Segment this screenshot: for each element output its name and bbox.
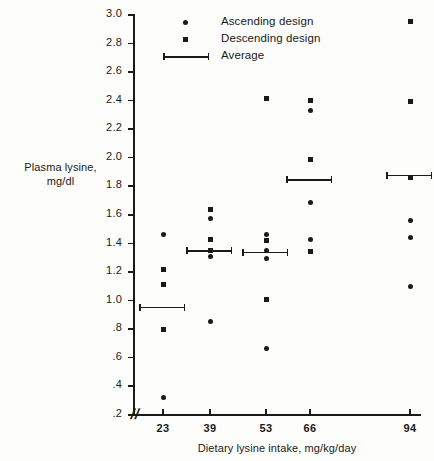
y-tick-mark: [128, 243, 133, 245]
legend: Ascending design Descending design Avera…: [155, 14, 355, 65]
y-tick-mark: [128, 157, 133, 159]
data-point-square: [264, 96, 269, 101]
y-axis-line: [133, 14, 135, 415]
average-line-right-cap-icon: [208, 53, 210, 60]
y-tick-label: 1.2: [92, 264, 122, 276]
data-point-square: [308, 249, 313, 254]
data-point-square: [264, 238, 269, 243]
y-tick-mark: [128, 271, 133, 273]
data-point-circle: [161, 395, 166, 400]
data-point-circle: [408, 235, 413, 240]
average-bar-left-cap: [186, 247, 188, 254]
x-axis-line: [133, 414, 421, 416]
legend-item-descending: Descending design: [155, 31, 355, 48]
data-point-circle: [408, 218, 413, 223]
scatter-plot: // 3.02.82.62.42.22.01.81.61.41.21.0.8.6…: [0, 0, 434, 461]
y-tick-mark: [128, 71, 133, 73]
y-tick-mark: [128, 300, 133, 302]
y-tick-mark: [128, 328, 133, 330]
data-point-square: [208, 237, 213, 242]
y-tick-label: 2.2: [92, 121, 122, 133]
square-marker-icon: [183, 37, 188, 42]
y-tick-label: .6: [92, 350, 122, 362]
y-tick-mark: [128, 185, 133, 187]
x-tick-label: 53: [251, 422, 281, 434]
x-tick-label: 66: [295, 422, 325, 434]
data-point-square: [308, 98, 313, 103]
x-tick-mark: [309, 409, 311, 414]
data-point-circle: [208, 216, 213, 221]
average-line-icon: [163, 56, 209, 58]
legend-label-descending: Descending design: [221, 32, 321, 44]
average-bar-right-cap: [331, 176, 333, 183]
x-tick-label: 94: [395, 422, 425, 434]
legend-label-average: Average: [221, 49, 264, 61]
y-tick-mark: [128, 14, 133, 16]
average-bar-left-cap: [286, 176, 288, 183]
data-point-square: [161, 282, 166, 287]
data-point-circle: [264, 232, 269, 237]
y-axis-title-line1: Plasma lysine,: [8, 160, 113, 174]
average-bar: [139, 307, 185, 309]
average-bar-right-cap: [184, 304, 186, 311]
y-tick-mark: [128, 128, 133, 130]
x-tick-mark: [209, 409, 211, 414]
data-point-square: [208, 207, 213, 212]
legend-item-average: Average: [155, 48, 355, 65]
average-bar: [186, 250, 232, 252]
y-tick-label: .2: [92, 407, 122, 419]
y-tick-label: 2.8: [92, 36, 122, 48]
data-point-circle: [264, 346, 269, 351]
data-point-square: [408, 19, 413, 24]
y-tick-mark: [128, 100, 133, 102]
average-bar: [386, 175, 432, 177]
y-tick-label: .8: [92, 321, 122, 333]
data-point-square: [408, 99, 413, 104]
x-tick-mark: [409, 409, 411, 414]
y-tick-label: 1.4: [92, 236, 122, 248]
average-bar: [286, 179, 332, 181]
y-tick-label: .4: [92, 378, 122, 390]
data-point-circle: [308, 237, 313, 242]
data-point-circle: [408, 284, 413, 289]
average-bar-right-cap: [231, 247, 233, 254]
y-tick-mark: [128, 414, 133, 416]
y-tick-label: 3.0: [92, 7, 122, 19]
y-tick-mark: [128, 214, 133, 216]
y-tick-mark: [128, 43, 133, 45]
data-point-circle: [208, 319, 213, 324]
x-tick-mark: [162, 409, 164, 414]
y-tick-mark: [128, 357, 133, 359]
x-axis-title: Dietary lysine intake, mg/kg/day: [133, 442, 421, 454]
data-point-circle: [208, 254, 213, 259]
y-tick-label: 1.6: [92, 207, 122, 219]
y-tick-mark: [128, 385, 133, 387]
average-bar-left-cap: [242, 249, 244, 256]
average-line-left-cap-icon: [163, 53, 165, 60]
average-bar-left-cap: [386, 172, 388, 179]
data-point-square: [264, 297, 269, 302]
data-point-circle: [161, 232, 166, 237]
circle-marker-icon: [183, 20, 188, 25]
x-tick-mark: [265, 409, 267, 414]
legend-item-ascending: Ascending design: [155, 14, 355, 31]
data-point-square: [161, 327, 166, 332]
data-point-circle: [308, 200, 313, 205]
y-tick-label: 2.4: [92, 93, 122, 105]
y-tick-label: 1.0: [92, 293, 122, 305]
average-bar-right-cap: [287, 249, 289, 256]
data-point-circle: [264, 256, 269, 261]
data-point-circle: [308, 108, 313, 113]
x-tick-label: 23: [148, 422, 178, 434]
legend-label-ascending: Ascending design: [221, 15, 313, 27]
average-bar-right-cap: [431, 172, 433, 179]
average-bar: [242, 252, 288, 254]
data-point-square: [308, 157, 313, 162]
data-point-square: [161, 267, 166, 272]
average-bar-left-cap: [139, 304, 141, 311]
y-axis-title-line2: mg/dl: [8, 174, 113, 188]
x-tick-label: 39: [195, 422, 225, 434]
y-axis-title: Plasma lysine, mg/dl: [8, 160, 113, 188]
y-tick-label: 2.6: [92, 64, 122, 76]
